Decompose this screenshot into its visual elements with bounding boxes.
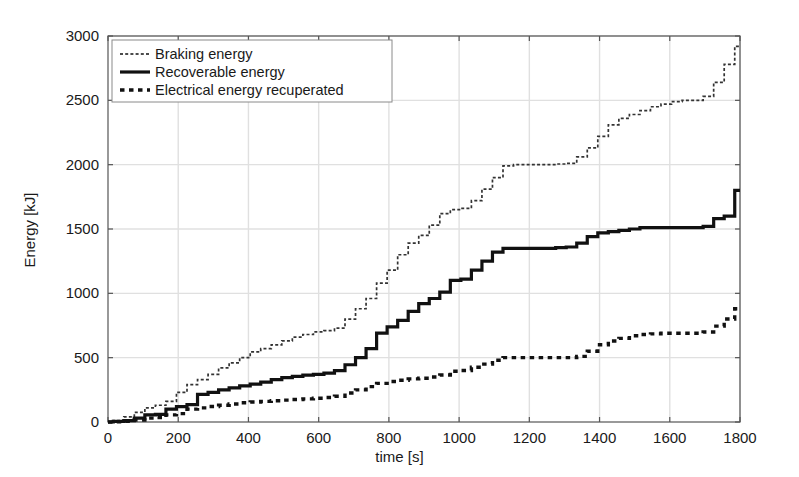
x-tick-label: 1600 <box>653 429 686 446</box>
chart-legend: Braking energyRecoverable energyElectric… <box>112 40 392 102</box>
series-line-2 <box>108 190 740 422</box>
x-tick-label: 600 <box>306 429 331 446</box>
y-tick-label: 0 <box>91 413 99 430</box>
x-tick-label: 1800 <box>723 429 756 446</box>
x-tick-label: 800 <box>376 429 401 446</box>
y-tick-label: 2500 <box>66 91 99 108</box>
legend-label-3: Electrical energy recuperated <box>155 82 344 98</box>
x-tick-labels: 020040060080010001200140016001800 <box>104 429 757 446</box>
y-axis-label-wrap: Energy [kJ] <box>14 150 44 310</box>
figure-canvas: 020040060080010001200140016001800 050010… <box>0 0 799 477</box>
y-tick-label: 1000 <box>66 284 99 301</box>
y-tick-label: 2000 <box>66 156 99 173</box>
data-series <box>108 46 740 422</box>
x-tick-label: 200 <box>166 429 191 446</box>
legend-label-1: Braking energy <box>155 46 253 62</box>
y-tick-label: 500 <box>74 349 99 366</box>
legend-label-2: Recoverable energy <box>155 64 286 80</box>
energy-chart-plot: 020040060080010001200140016001800 050010… <box>0 0 799 477</box>
x-tick-label: 1000 <box>442 429 475 446</box>
series-line-1 <box>108 46 740 422</box>
y-tick-label: 1500 <box>66 220 99 237</box>
y-axis-label: Energy [kJ] <box>21 192 38 267</box>
x-tick-label: 400 <box>236 429 261 446</box>
x-axis-label: time [s] <box>0 448 799 465</box>
x-tick-label: 0 <box>104 429 112 446</box>
x-tick-label: 1400 <box>583 429 616 446</box>
y-tick-label: 3000 <box>66 27 99 44</box>
y-tick-labels: 050010001500200025003000 <box>66 27 99 430</box>
series-line-3 <box>108 309 740 422</box>
x-tick-label: 1200 <box>513 429 546 446</box>
